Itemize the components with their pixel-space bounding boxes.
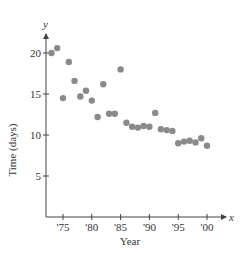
y-tick-label: 10 [30, 129, 42, 141]
data-point [135, 124, 141, 130]
data-point [187, 138, 193, 144]
data-point [158, 126, 164, 132]
data-point [198, 135, 204, 141]
data-point [77, 93, 83, 99]
y-tick-label: 20 [30, 47, 42, 59]
x-tick-label: '75 [57, 221, 70, 233]
x-axis-label: Year [120, 235, 141, 247]
y-tick-label: 5 [36, 170, 42, 182]
y-axis-label: Time (days) [6, 123, 19, 176]
data-points [48, 45, 210, 149]
y-axis-variable: y [42, 18, 48, 30]
data-point [71, 78, 77, 84]
y-tick-label: 15 [30, 88, 42, 100]
data-point [112, 111, 118, 117]
x-tick-label: '85 [114, 221, 127, 233]
data-point [169, 128, 175, 134]
data-point [48, 50, 54, 56]
data-point [54, 45, 60, 51]
data-point [117, 66, 123, 72]
data-point [66, 59, 72, 65]
data-point [175, 140, 181, 146]
x-tick-label: '00 [201, 221, 214, 233]
data-point [129, 124, 135, 130]
data-point [164, 127, 170, 133]
data-point [60, 95, 66, 101]
data-point [100, 81, 106, 87]
x-tick-label: '95 [172, 221, 185, 233]
data-point [181, 138, 187, 144]
data-point [140, 123, 146, 129]
data-point [89, 97, 95, 103]
data-point [94, 114, 100, 120]
x-axis-variable: x [228, 211, 234, 223]
data-point [204, 143, 210, 149]
scatter-chart: x y '75'80'85'90'95'00 5101520 Year Time… [0, 0, 246, 253]
data-point [83, 88, 89, 94]
data-point [106, 111, 112, 117]
axes: x y '75'80'85'90'95'00 5101520 Year Time… [6, 18, 234, 247]
data-point [152, 110, 158, 116]
x-tick-label: '90 [143, 221, 156, 233]
data-point [146, 124, 152, 130]
data-point [192, 139, 198, 145]
data-point [123, 120, 129, 126]
x-tick-label: '80 [85, 221, 98, 233]
